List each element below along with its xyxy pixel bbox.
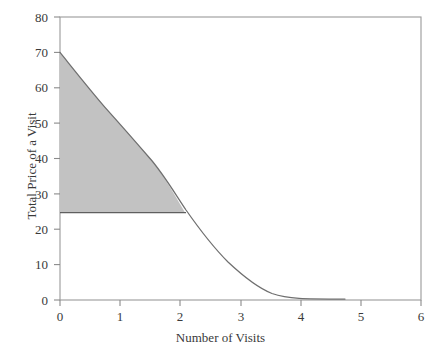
- y-axis-ticks: [54, 17, 60, 300]
- y-axis-title: Total Price of a Visit: [24, 86, 40, 246]
- chart-plot-area: [0, 0, 441, 354]
- x-tick-label-6: 6: [411, 310, 431, 323]
- y-tick-label-0: 0: [22, 294, 48, 307]
- y-tick-label-70: 70: [22, 46, 48, 59]
- y-tick-label-80: 80: [22, 11, 48, 24]
- x-tick-label-1: 1: [110, 310, 130, 323]
- x-axis-title: Number of Visits: [0, 330, 441, 346]
- x-tick-label-5: 5: [351, 310, 371, 323]
- x-tick-label-4: 4: [291, 310, 311, 323]
- x-tick-label-0: 0: [50, 310, 70, 323]
- chart-figure: 0 10 20 30 40 50 60 70 80 0 1 2 3 4 5 6 …: [0, 0, 441, 354]
- y-tick-label-10: 10: [22, 258, 48, 271]
- x-tick-label-3: 3: [231, 310, 251, 323]
- x-axis-ticks: [60, 300, 421, 306]
- x-tick-label-2: 2: [170, 310, 190, 323]
